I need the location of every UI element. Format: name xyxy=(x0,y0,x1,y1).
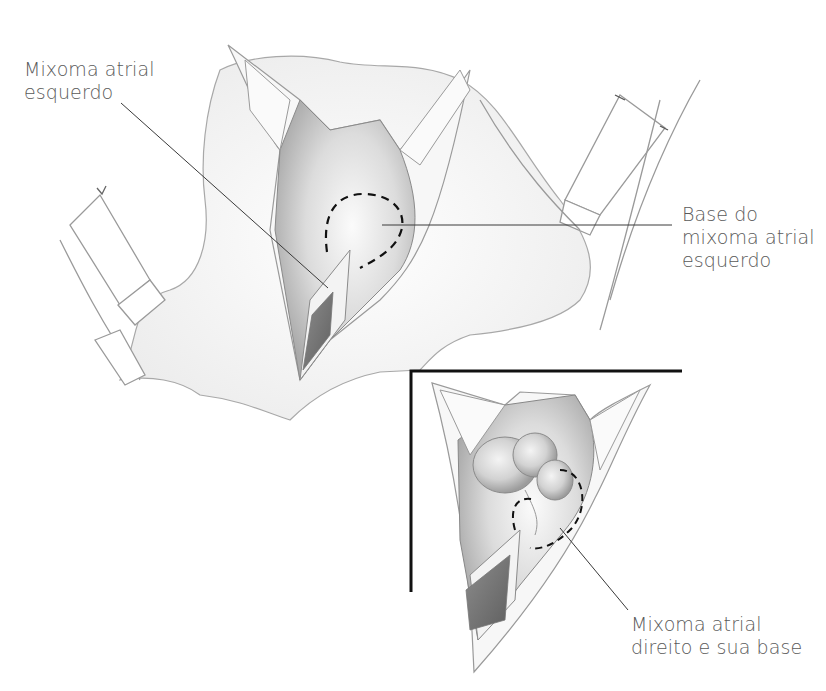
label-left-atrial-myxoma: Mixoma atrial esquerdo xyxy=(24,58,155,104)
label-line: Base do xyxy=(682,203,815,226)
label-right-atrial-myxoma: Mixoma atrial direito e sua base xyxy=(631,613,802,659)
label-line: Mixoma atrial xyxy=(24,58,155,81)
label-line: esquerdo xyxy=(24,81,155,104)
label-left-myxoma-base: Base do mixoma atrial esquerdo xyxy=(682,203,815,272)
label-line: direito e sua base xyxy=(631,636,802,659)
label-line: mixoma atrial xyxy=(682,226,815,249)
label-line: esquerdo xyxy=(682,249,815,272)
leader-right-atrial-myxoma xyxy=(560,528,628,610)
right-atriotomy-inset xyxy=(432,383,650,672)
label-line: Mixoma atrial xyxy=(631,613,802,636)
